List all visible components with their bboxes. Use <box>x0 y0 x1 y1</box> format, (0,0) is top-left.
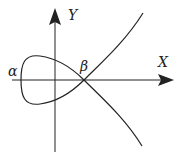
y-axis-label: Y <box>68 7 79 23</box>
curve-upper-branch <box>84 13 143 80</box>
beta-label: β <box>79 58 88 74</box>
cubic-curve-diagram: Y X α β <box>0 0 182 159</box>
curve-lower-branch <box>84 80 142 146</box>
alpha-label: α <box>8 63 18 79</box>
x-axis-label: X <box>157 54 169 70</box>
